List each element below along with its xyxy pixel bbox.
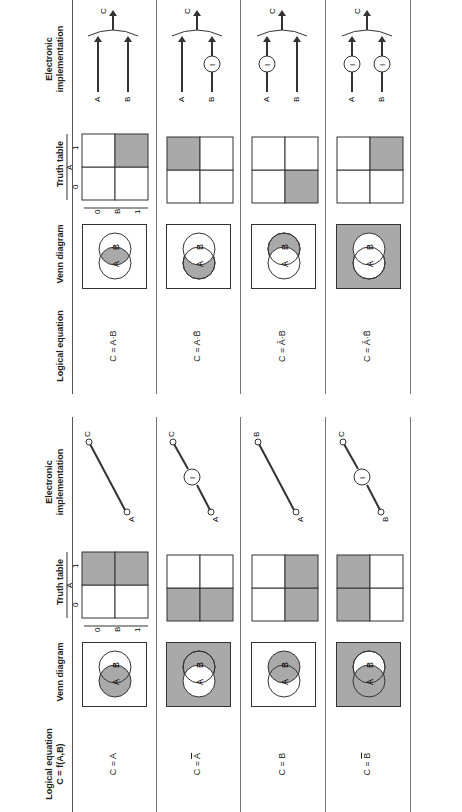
svg-text:B: B — [113, 209, 122, 214]
header-logical-equation: Logical equation — [55, 306, 66, 386]
electronic-circuit: A I C — [166, 422, 226, 522]
svg-text:A: A — [280, 261, 290, 267]
svg-text:A: A — [195, 261, 205, 267]
svg-text:A: A — [177, 96, 186, 102]
svg-text:A: A — [127, 516, 136, 522]
svg-text:B: B — [111, 662, 121, 668]
and-gate-circuit: AB I C — [162, 4, 234, 104]
electronic-circuit: A B — [251, 422, 311, 522]
svg-text:1: 1 — [133, 209, 142, 214]
svg-text:A: A — [365, 679, 375, 685]
svg-text:B: B — [381, 517, 390, 522]
venn-diagram: AB — [251, 641, 317, 707]
table-row: C = Ā·B AB AB I — [241, 0, 326, 394]
logical-equation: C = A·B — [108, 306, 118, 386]
svg-text:I: I — [208, 64, 217, 66]
venn-diagram: AB — [336, 641, 402, 707]
svg-text:B: B — [365, 244, 375, 250]
truth-table — [336, 134, 406, 204]
truth-table — [166, 134, 236, 204]
and-gate-circuit: AB I I C — [332, 4, 404, 104]
svg-text:B: B — [207, 97, 216, 102]
svg-text:B: B — [252, 432, 261, 437]
eq-prefix: C = — [362, 759, 372, 776]
header-electronic-implementation: Electronic implementation — [44, 4, 66, 114]
logical-equation: C = A·B̄ — [192, 306, 202, 386]
table-row: C = A AB 0A1 0B1 A — [72, 417, 157, 812]
svg-text:B: B — [195, 662, 205, 668]
eq-var-negated: B — [362, 753, 372, 759]
truth-table: 0A1 0B1 — [64, 540, 154, 632]
svg-text:I: I — [188, 477, 197, 479]
svg-text:C: C — [99, 8, 108, 14]
electronic-circuit: A C — [82, 422, 142, 522]
svg-text:A: A — [280, 679, 290, 685]
truth-table — [251, 552, 321, 622]
svg-text:A: A — [65, 164, 74, 170]
svg-text:B: B — [123, 97, 132, 102]
svg-text:A: A — [111, 261, 121, 267]
svg-text:B: B — [111, 244, 121, 250]
svg-text:I: I — [378, 64, 387, 66]
electronic-circuit: B I C — [336, 422, 396, 522]
eq-var: A — [108, 753, 118, 759]
header-text: implementation — [55, 432, 66, 532]
header-electronic-implementation: Electronic implementation — [44, 432, 66, 532]
venn-diagram: AB — [82, 223, 148, 289]
logical-equation: C = Ā·B — [277, 306, 287, 386]
svg-text:A: A — [65, 582, 74, 588]
header-text: C = f(A,B) — [55, 724, 66, 804]
svg-text:A: A — [111, 679, 121, 685]
logical-equation: C = A — [192, 724, 202, 804]
svg-text:0: 0 — [93, 209, 102, 214]
single-variable-table: Logical equation C = f(A,B) Venn diagram… — [0, 417, 462, 812]
venn-diagram: AB — [82, 641, 148, 707]
eq-prefix: C = — [108, 759, 118, 775]
table-row: C = B AB B I C — [326, 417, 411, 812]
header-venn-diagram: Venn diagram — [55, 632, 66, 712]
logical-equation: C = A — [108, 724, 118, 804]
logical-equation: C = Ā·B̄ — [362, 306, 372, 386]
svg-text:A: A — [93, 96, 102, 102]
eq-var: B — [277, 753, 287, 759]
svg-text:I: I — [358, 477, 367, 479]
table-row: C = A AB A I C — [156, 417, 241, 812]
svg-text:B: B — [280, 662, 290, 668]
svg-text:B: B — [195, 244, 205, 250]
svg-text:A: A — [365, 261, 375, 267]
svg-text:1: 1 — [133, 627, 142, 632]
svg-text:A: A — [347, 96, 356, 102]
eq-prefix: C = — [192, 759, 202, 775]
table-header: Logical equation Venn diagram Truth tabl… — [0, 0, 73, 394]
and-gate-circuit: AB I C — [247, 4, 319, 104]
table-header: Logical equation C = f(A,B) Venn diagram… — [0, 417, 73, 812]
header-text: Electronic — [44, 4, 55, 114]
table-row: C = Ā·B̄ AB AB I — [326, 0, 411, 394]
svg-text:I: I — [348, 64, 357, 66]
eq-var-negated: A — [192, 753, 202, 759]
svg-text:B: B — [377, 97, 386, 102]
svg-text:C: C — [167, 431, 176, 437]
header-text: implementation — [55, 4, 66, 114]
truth-table — [166, 552, 236, 622]
logical-equation: C = B — [362, 724, 372, 804]
venn-diagram: AB — [336, 223, 402, 289]
table-row: C = A·B̄ AB AB I — [156, 0, 241, 394]
venn-diagram: AB — [166, 223, 232, 289]
truth-table — [251, 134, 321, 204]
header-venn-diagram: Venn diagram — [55, 214, 66, 294]
svg-text:A: A — [296, 516, 305, 522]
svg-text:C: C — [183, 8, 192, 14]
eq-prefix: C = — [277, 759, 287, 776]
svg-text:1: 1 — [71, 145, 80, 150]
svg-text:C: C — [83, 431, 92, 437]
svg-text:B: B — [280, 244, 290, 250]
and-gate-circuit: AB C — [78, 4, 150, 104]
svg-text:I: I — [263, 64, 272, 66]
logical-equation: C = B — [277, 724, 287, 804]
svg-text:C: C — [337, 431, 346, 437]
svg-text:C: C — [268, 8, 277, 14]
svg-text:A: A — [262, 96, 271, 102]
svg-text:0: 0 — [93, 627, 102, 632]
venn-diagram: AB — [251, 223, 317, 289]
